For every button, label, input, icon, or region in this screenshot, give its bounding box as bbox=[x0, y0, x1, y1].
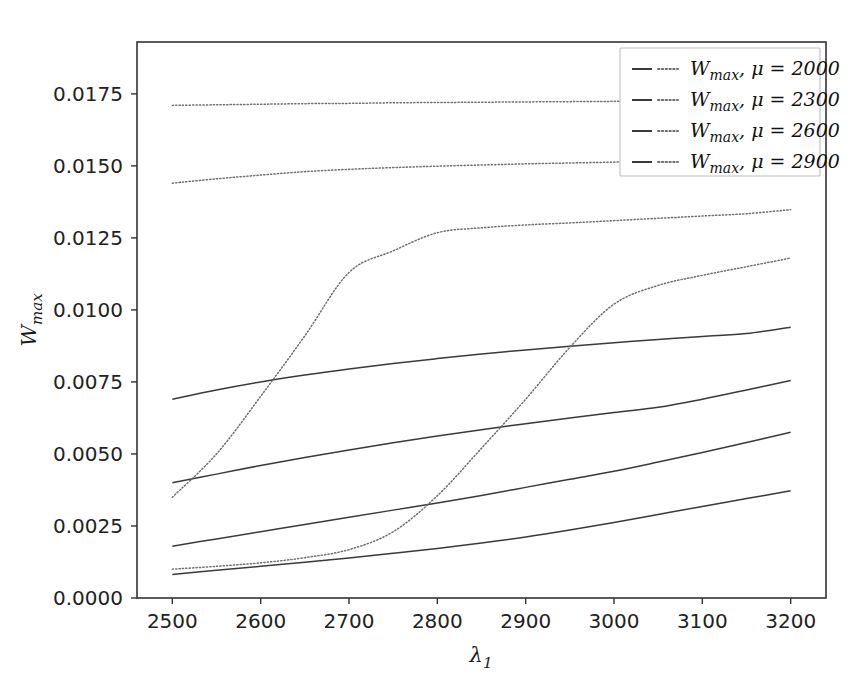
y-tick-label: 0.0100 bbox=[53, 298, 123, 322]
x-tick-label: 2500 bbox=[147, 609, 198, 633]
x-tick-label: 2700 bbox=[324, 609, 375, 633]
y-tick-label: 0.0025 bbox=[53, 514, 123, 538]
x-tick-label: 3000 bbox=[589, 609, 640, 633]
chart-figure: 25002600270028002900300031003200 0.00000… bbox=[0, 0, 858, 691]
x-tick-label: 2800 bbox=[412, 609, 463, 633]
x-tick-label: 2900 bbox=[500, 609, 551, 633]
y-tick-label: 0.0050 bbox=[53, 442, 123, 466]
legend: Wmax, μ = 2000Wmax, μ = 2300Wmax, μ = 26… bbox=[620, 48, 840, 176]
y-tick-label: 0.0125 bbox=[53, 226, 123, 250]
y-tick-label: 0.0075 bbox=[53, 370, 123, 394]
x-tick-label: 3200 bbox=[765, 609, 816, 633]
x-tick-label: 2600 bbox=[235, 609, 286, 633]
line-chart: 25002600270028002900300031003200 0.00000… bbox=[0, 0, 858, 691]
y-tick-label: 0.0175 bbox=[53, 82, 123, 106]
x-tick-label: 3100 bbox=[677, 609, 728, 633]
y-tick-label: 0.0150 bbox=[53, 154, 123, 178]
y-tick-label: 0.0000 bbox=[53, 586, 123, 610]
